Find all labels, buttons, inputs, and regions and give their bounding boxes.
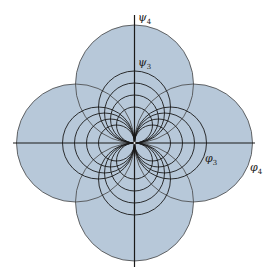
label-psi4: ψ4	[138, 11, 152, 26]
svg-text:ψ4: ψ4	[138, 11, 152, 26]
svg-text:φ4: φ4	[250, 161, 263, 176]
label-phi4: φ4	[250, 161, 263, 176]
doublet-flow-diagram: ψ4 ψ3 φ3 φ4	[0, 0, 270, 280]
origin-point	[133, 142, 136, 145]
